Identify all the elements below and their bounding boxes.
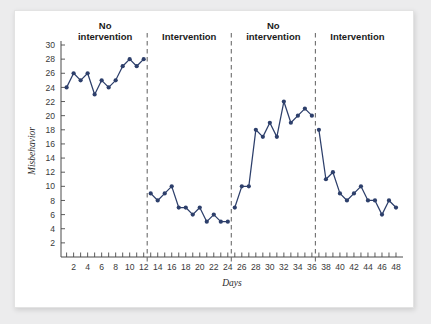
phase-label: Intervention (162, 31, 217, 42)
data-point (366, 198, 370, 202)
data-point (72, 71, 76, 75)
data-point (79, 78, 83, 82)
data-point (163, 191, 167, 195)
data-point (149, 191, 153, 195)
data-point (352, 191, 356, 195)
data-point (198, 205, 202, 209)
figure-card: 2468101214161820222426283024681012141618… (14, 10, 414, 308)
data-point (345, 198, 349, 202)
y-tick-label: 10 (45, 181, 55, 191)
y-tick-label: 28 (45, 54, 55, 64)
series-line-segment (319, 130, 396, 215)
phase-label-line1: No (99, 20, 112, 31)
x-tick-label: 44 (363, 262, 373, 272)
x-tick-label: 22 (209, 262, 219, 272)
data-point (296, 114, 300, 118)
y-tick-label: 16 (45, 139, 55, 149)
series-line-segment (235, 102, 312, 208)
data-point (86, 71, 90, 75)
x-tick-label: 40 (335, 262, 345, 272)
data-point (233, 205, 237, 209)
x-tick-label: 16 (167, 262, 177, 272)
data-point (359, 184, 363, 188)
data-point (93, 92, 97, 96)
x-tick-label: 38 (321, 262, 331, 272)
x-tick-label: 18 (181, 262, 191, 272)
data-point (191, 213, 195, 217)
data-point (275, 135, 279, 139)
y-tick-label: 4 (50, 224, 55, 234)
x-tick-label: 26 (237, 262, 247, 272)
misbehavior-line-chart: 2468101214161820222426283024681012141618… (15, 11, 415, 309)
x-tick-label: 34 (293, 262, 303, 272)
y-tick-label: 8 (50, 196, 55, 206)
x-tick-label: 8 (113, 262, 118, 272)
data-point (338, 191, 342, 195)
data-point (380, 213, 384, 217)
y-tick-label: 22 (45, 97, 55, 107)
data-point (212, 213, 216, 217)
phase-label: Intervention (330, 31, 385, 42)
series-line-segment (67, 59, 144, 94)
x-tick-label: 10 (125, 262, 135, 272)
data-point (268, 121, 272, 125)
data-point (317, 128, 321, 132)
data-point (240, 184, 244, 188)
x-tick-label: 42 (349, 262, 359, 272)
y-tick-label: 6 (50, 210, 55, 220)
data-point (135, 64, 139, 68)
data-point (219, 220, 223, 224)
x-tick-label: 12 (139, 262, 149, 272)
phase-label-line2: intervention (246, 31, 301, 42)
data-point (156, 198, 160, 202)
x-tick-label: 32 (279, 262, 289, 272)
data-point (107, 85, 111, 89)
data-point (142, 57, 146, 61)
chart-plot-area: 2468101214161820222426283024681012141618… (15, 11, 415, 309)
data-point (128, 57, 132, 61)
y-tick-label: 2 (50, 238, 55, 248)
x-tick-label: 46 (377, 262, 387, 272)
x-tick-label: 6 (99, 262, 104, 272)
phase-label-line1: No (267, 20, 280, 31)
x-tick-label: 2 (71, 262, 76, 272)
data-point (114, 78, 118, 82)
phase-label-line2: intervention (78, 31, 133, 42)
data-point (394, 205, 398, 209)
y-tick-label: 18 (45, 125, 55, 135)
data-point (303, 107, 307, 111)
x-tick-label: 4 (85, 262, 90, 272)
data-point (261, 135, 265, 139)
x-tick-label: 14 (153, 262, 163, 272)
y-tick-label: 12 (45, 167, 55, 177)
y-tick-label: 20 (45, 111, 55, 121)
data-point (65, 85, 69, 89)
data-point (324, 177, 328, 181)
data-point (121, 64, 125, 68)
data-point (205, 220, 209, 224)
data-point (331, 170, 335, 174)
data-point (373, 198, 377, 202)
data-point (254, 128, 258, 132)
x-tick-label: 48 (391, 262, 401, 272)
series-line-segment (151, 186, 228, 221)
data-point (184, 205, 188, 209)
data-point (247, 184, 251, 188)
data-point (170, 184, 174, 188)
y-tick-label: 30 (45, 40, 55, 50)
x-tick-label: 28 (251, 262, 261, 272)
data-point (282, 99, 286, 103)
x-tick-label: 24 (223, 262, 233, 272)
y-tick-label: 24 (45, 83, 55, 93)
x-axis-title: Days (221, 278, 242, 288)
x-tick-label: 30 (265, 262, 275, 272)
x-tick-label: 36 (307, 262, 317, 272)
data-point (289, 121, 293, 125)
data-point (310, 114, 314, 118)
data-point (226, 220, 230, 224)
data-point (387, 198, 391, 202)
data-point (177, 205, 181, 209)
y-tick-label: 14 (45, 153, 55, 163)
x-tick-label: 20 (195, 262, 205, 272)
data-point (100, 78, 104, 82)
